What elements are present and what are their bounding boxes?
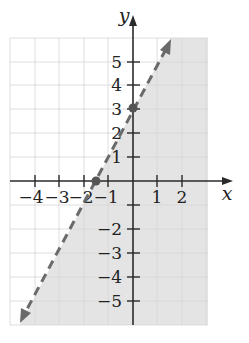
y-tick-label: 4 — [111, 75, 122, 95]
x-axis-label: x — [222, 182, 233, 204]
y-tick-label: −4 — [97, 267, 122, 287]
x-tick-label: −1 — [93, 187, 118, 207]
x-intercept-point — [92, 177, 101, 186]
x-tick-label: −2 — [68, 187, 93, 207]
x-tick-label: 1 — [152, 187, 163, 207]
y-axis-arrow-icon — [129, 15, 137, 26]
y-tick-label: 1 — [111, 147, 122, 167]
y-intercept-point — [129, 104, 138, 113]
y-axis-label: y — [118, 4, 130, 26]
x-tick-label: −3 — [44, 187, 69, 207]
inequality-graph: −4 −3 −2 −1 1 2 x 5 4 3 2 1 −2 −3 −4 −5 — [0, 0, 249, 343]
x-tick-label: −4 — [18, 187, 43, 207]
y-tick-label: −5 — [97, 291, 122, 311]
y-tick-label: −2 — [97, 219, 122, 239]
y-axis: 5 4 3 2 1 −2 −3 −4 −5 y — [97, 4, 140, 325]
line-arrow-up-icon — [160, 39, 171, 55]
y-tick-label: −3 — [97, 243, 122, 263]
x-tick-label: 2 — [177, 187, 188, 207]
y-tick-label: 3 — [111, 99, 122, 119]
y-tick-label: 5 — [111, 52, 122, 72]
